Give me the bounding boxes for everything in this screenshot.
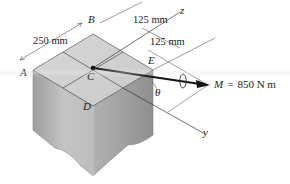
z-axis-label: z [179,4,185,16]
point-b-label: B [88,13,95,25]
point-e-label: E [147,54,155,66]
dim-250-label: 250 mm [33,35,68,46]
cone-lower-line [168,85,208,112]
y-axis-label: y [202,126,208,138]
point-a-label: A [19,66,27,78]
cone-upper-line [148,50,208,85]
diagram-canvas: z y 250 mm 125 mm 125 mm B A C D E θ M [0,0,290,184]
moment-label: M=850 N m [213,78,276,90]
dim-125-upper-label: 125 mm [133,14,168,25]
moment-arrowhead-icon [196,80,210,88]
point-d-label: D [82,100,91,112]
block-diagram: z y 250 mm 125 mm 125 mm B A C D E θ M [0,0,290,184]
moment-symbol: M [213,78,224,90]
moment-value: 850 N m [237,78,276,90]
point-c-label: C [87,70,95,82]
dim-125-lower-label: 125 mm [150,36,185,47]
moment-equals: = [227,78,233,90]
